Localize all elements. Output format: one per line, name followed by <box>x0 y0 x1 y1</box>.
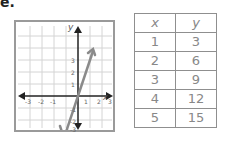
cell-y: 15 <box>176 109 217 128</box>
table-row: 1 3 <box>135 33 217 52</box>
y-tick--3: -3 <box>70 126 76 133</box>
x-tick-3: 3 <box>108 98 112 105</box>
cell-y: 9 <box>176 71 217 90</box>
header-y: y <box>176 14 217 33</box>
cell-y: 3 <box>176 33 217 52</box>
table-row: 5 15 <box>135 109 217 128</box>
y-tick-2: 2 <box>71 69 75 76</box>
y-tick-1: 1 <box>71 81 75 88</box>
table-row: 2 6 <box>135 52 217 71</box>
cell-x: 5 <box>135 109 176 128</box>
table-header-row: x y <box>135 14 217 33</box>
cell-x: 1 <box>135 33 176 52</box>
cell-x: 4 <box>135 90 176 109</box>
x-axis-left-arrow-icon <box>18 92 25 100</box>
cell-x: 3 <box>135 71 176 90</box>
y-tick--2: -2 <box>70 118 76 125</box>
x-tick--2: -2 <box>38 98 44 105</box>
table-row: 4 12 <box>135 90 217 109</box>
y-tick-3: 3 <box>71 57 75 64</box>
coordinate-graph: y x -3 -2 -1 1 2 3 3 2 1 -1 -2 -3 <box>14 20 115 132</box>
header-x: x <box>135 14 176 33</box>
y-axis-up-arrow-icon <box>74 26 82 33</box>
x-tick--1: -1 <box>50 98 56 105</box>
cell-y: 12 <box>176 90 217 109</box>
y-tick--1: -1 <box>70 106 76 113</box>
x-tick-1: 1 <box>84 98 88 105</box>
xy-table: x y 1 3 2 6 3 9 4 12 5 15 <box>134 13 217 128</box>
cell-y: 6 <box>176 52 217 71</box>
graph-plot <box>16 22 113 130</box>
y-axis-label: y <box>68 22 73 32</box>
x-tick-2: 2 <box>97 98 101 105</box>
cell-x: 2 <box>135 52 176 71</box>
header-fragment: e. <box>0 0 15 10</box>
table-row: 3 9 <box>135 71 217 90</box>
x-tick--3: -3 <box>25 98 31 105</box>
